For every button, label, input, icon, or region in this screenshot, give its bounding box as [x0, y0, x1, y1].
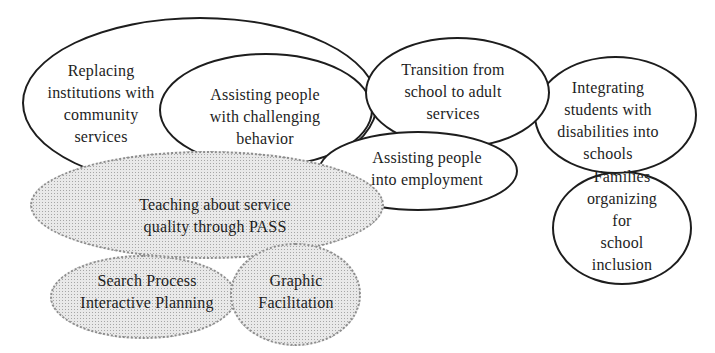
bubble-graphic-facilitation — [230, 243, 361, 346]
venn-bubble-diagram: Replacing institutions with community se… — [0, 0, 715, 353]
bubble-integrating-students — [534, 56, 697, 174]
bubble-search-process — [50, 255, 237, 339]
bubble-teaching-pass — [30, 151, 384, 259]
bubble-families-organizing — [552, 171, 692, 285]
